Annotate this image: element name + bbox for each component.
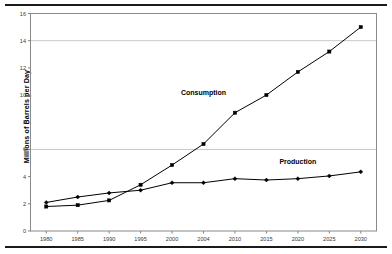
data-point-marker — [359, 170, 363, 174]
data-point-marker — [265, 93, 268, 96]
x-tick-label: 2015 — [260, 236, 272, 242]
y-axis-ticks: 0246810121416 — [20, 11, 31, 235]
series-annotation-label: Consumption — [181, 89, 226, 97]
x-tick-label: 2020 — [292, 236, 304, 242]
data-point-marker — [296, 70, 299, 73]
data-point-marker — [108, 199, 111, 202]
chart-figure: Millions of Barrels per Day 024681012141… — [0, 0, 392, 254]
x-tick-label: 1990 — [103, 236, 115, 242]
x-tick-label: 1995 — [134, 236, 146, 242]
data-point-marker — [233, 177, 237, 181]
data-point-marker — [233, 111, 236, 114]
data-point-marker — [170, 163, 173, 166]
data-point-marker — [76, 204, 79, 207]
data-point-marker — [359, 25, 362, 28]
y-tick-label: 10 — [20, 92, 26, 98]
data-point-marker — [264, 178, 268, 182]
x-tick-label: 2025 — [323, 236, 335, 242]
x-tick-label: 2004 — [197, 236, 209, 242]
data-point-marker — [170, 181, 174, 185]
data-point-marker — [139, 188, 143, 192]
line-chart-plot: 0246810121416 19801985199019952000200420… — [0, 0, 392, 254]
data-point-marker — [45, 205, 48, 208]
data-point-marker — [296, 177, 300, 181]
series-annotation-label: Production — [279, 158, 316, 165]
plot-area-border — [31, 14, 377, 232]
data-point-marker — [76, 195, 80, 199]
data-point-marker — [139, 183, 142, 186]
y-tick-label: 2 — [23, 201, 26, 207]
data-point-marker — [327, 174, 331, 178]
data-point-marker — [44, 200, 48, 204]
y-tick-label: 16 — [20, 11, 26, 17]
y-tick-label: 14 — [20, 38, 26, 44]
x-axis-ticks: 1980198519901995200020042010201520202025… — [40, 231, 367, 242]
data-point-marker — [328, 50, 331, 53]
y-tick-label: 12 — [20, 65, 26, 71]
series-annotations: ConsumptionProduction — [181, 89, 316, 165]
data-point-marker — [107, 191, 111, 195]
data-point-marker — [202, 181, 206, 185]
data-point-marker — [202, 142, 205, 145]
x-tick-label: 2030 — [355, 236, 367, 242]
y-tick-label: 0 — [23, 228, 26, 234]
x-tick-label: 2000 — [166, 236, 178, 242]
y-tick-label: 6 — [23, 146, 26, 152]
x-tick-label: 1980 — [40, 236, 52, 242]
x-tick-label: 1985 — [71, 236, 83, 242]
y-tick-label: 4 — [23, 174, 26, 180]
y-tick-label: 8 — [23, 119, 26, 125]
series-line — [46, 27, 361, 206]
x-tick-label: 2010 — [229, 236, 241, 242]
series-line — [46, 172, 361, 203]
series-production — [44, 170, 363, 205]
